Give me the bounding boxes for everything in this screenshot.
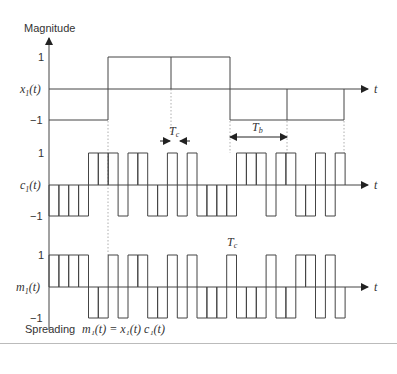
tc-annotation: Tc bbox=[160, 124, 190, 141]
m1-label: m1(t) bbox=[16, 280, 40, 296]
svg-text:Tb: Tb bbox=[252, 120, 263, 135]
m1-tick-pos: 1 bbox=[38, 249, 44, 261]
spreading-diagram: Magnitude 1 −1 x1(t) t 1 −1 c1(t) t Tc T… bbox=[0, 0, 397, 374]
x1-t-label: t bbox=[374, 82, 378, 96]
m1-t-label: t bbox=[374, 280, 378, 294]
c1-tick-neg: −1 bbox=[30, 210, 43, 222]
c1-tick-pos: 1 bbox=[38, 147, 44, 159]
c1-t-label: t bbox=[374, 178, 378, 192]
c1-label: c1(t) bbox=[20, 178, 41, 194]
x1-tick-neg: −1 bbox=[30, 114, 43, 126]
bit-boundary-guides bbox=[108, 89, 344, 255]
caption-formula: m₁(t) = x₁(t) c₁(t) bbox=[82, 322, 165, 336]
bottom-divider bbox=[0, 343, 397, 344]
caption-spreading: Spreading bbox=[25, 323, 75, 335]
tb-annotation: Tb bbox=[230, 120, 287, 137]
m1-tc-label: Tc bbox=[227, 235, 238, 250]
svg-text:Tc: Tc bbox=[169, 124, 180, 139]
y-axis-title: Magnitude bbox=[24, 22, 75, 34]
x1-label: x1(t) bbox=[19, 82, 41, 98]
x1-tick-pos: 1 bbox=[38, 51, 44, 63]
